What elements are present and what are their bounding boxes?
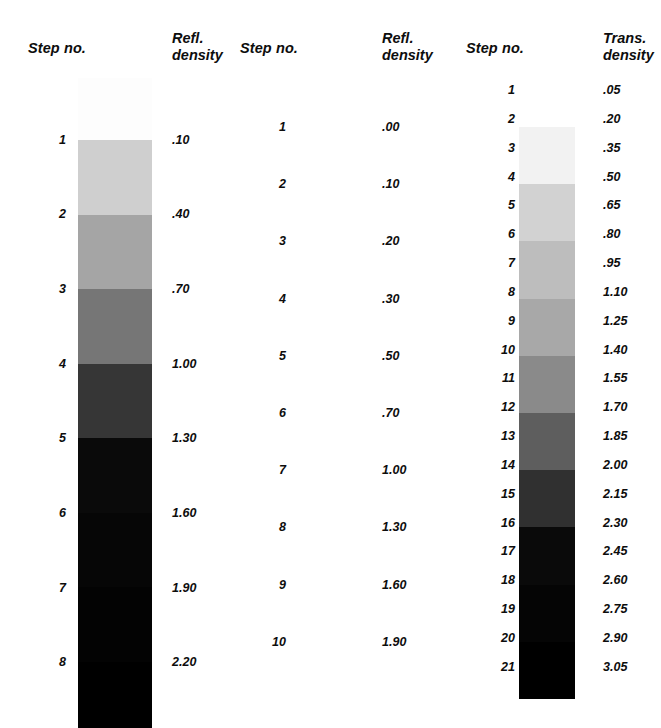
density-value-label: 1.60	[172, 507, 196, 520]
density-value-label: 2.30	[603, 517, 627, 530]
step-number-label: 14	[501, 459, 515, 472]
density-value-label: .10	[382, 178, 399, 191]
header-density-line2: density	[382, 47, 433, 63]
density-value-label: 1.55	[603, 372, 627, 385]
step-number-label: 10	[501, 344, 515, 357]
density-value-label: 1.25	[603, 315, 627, 328]
density-patch	[78, 140, 152, 215]
step-number-label: 6	[279, 407, 286, 420]
step-number-label: 3	[279, 235, 286, 248]
density-patch	[78, 438, 152, 513]
step-number-label: 5	[59, 432, 66, 445]
step-number-label: 4	[508, 171, 515, 184]
header-step-no: Step no.	[28, 40, 86, 56]
density-patch	[78, 289, 152, 364]
density-value-label: .50	[382, 350, 399, 363]
step-number-label: 6	[59, 507, 66, 520]
step-number-label: 15	[501, 488, 515, 501]
density-value-label: 1.00	[172, 358, 196, 371]
density-value-label: 2.45	[603, 545, 627, 558]
step-number-label: 8	[508, 286, 515, 299]
header-density-line2: density	[603, 47, 654, 63]
density-value-label: 1.85	[603, 430, 627, 443]
density-value-label: 1.90	[172, 582, 196, 595]
density-value-label: 1.40	[603, 344, 627, 357]
density-value-label: 1.70	[603, 401, 627, 414]
step-number-label: 6	[508, 228, 515, 241]
step-number-label: 8	[279, 521, 286, 534]
density-patch	[78, 364, 152, 439]
column-reflection-10-step: Step no. Refl. density 1.002.103.204.305…	[226, 0, 440, 728]
density-value-label: 2.60	[603, 574, 627, 587]
density-value-label: 1.60	[382, 579, 406, 592]
density-value-label: .50	[603, 171, 620, 184]
step-wedge-sheet: Step no. Refl. density 1.102.403.7041.00…	[0, 0, 661, 728]
step-number-label: 19	[501, 603, 515, 616]
step-number-label: 9	[279, 579, 286, 592]
density-value-label: 1.30	[172, 432, 196, 445]
step-number-label: 1	[279, 121, 286, 134]
density-patch	[78, 587, 152, 662]
header-step-no: Step no.	[240, 40, 298, 56]
density-value-label: .70	[172, 283, 189, 296]
step-number-label: 4	[59, 358, 66, 371]
density-value-label: .20	[603, 113, 620, 126]
step-number-label: 4	[279, 293, 286, 306]
density-value-label: 2.90	[603, 632, 627, 645]
step-number-label: 9	[508, 315, 515, 328]
step-number-label: 1	[59, 134, 66, 147]
step-number-label: 13	[501, 430, 515, 443]
step-number-label: 1	[508, 84, 515, 97]
column-transmission-21-step: Step no. Trans. density 1.052.203.354.50…	[440, 0, 661, 728]
density-value-label: .80	[603, 228, 620, 241]
step-number-label: 8	[59, 656, 66, 669]
density-patch	[78, 215, 152, 290]
step-number-label: 3	[508, 142, 515, 155]
density-value-label: .65	[603, 199, 620, 212]
step-number-label: 5	[508, 199, 515, 212]
step-number-label: 2	[59, 208, 66, 221]
density-value-label: 2.20	[172, 656, 196, 669]
column-reflection-8-step: Step no. Refl. density 1.102.403.7041.00…	[0, 0, 226, 728]
step-number-label: 3	[59, 283, 66, 296]
step-number-label: 7	[279, 464, 286, 477]
density-value-label: 3.05	[603, 661, 627, 674]
header-density-line1: Trans.	[603, 30, 646, 46]
step-number-label: 2	[279, 178, 286, 191]
density-value-label: 2.00	[603, 459, 627, 472]
density-value-label: .40	[172, 208, 189, 221]
density-value-label: 1.10	[603, 286, 627, 299]
density-strip	[78, 78, 152, 728]
density-value-label: .95	[603, 257, 620, 270]
density-value-label: .30	[382, 293, 399, 306]
header-density: Refl. density	[382, 30, 433, 63]
density-value-label: 1.90	[382, 636, 406, 649]
header-density-line1: Refl.	[172, 30, 203, 46]
density-value-label: .20	[382, 235, 399, 248]
density-value-label: 1.30	[382, 521, 406, 534]
density-value-label: .05	[603, 84, 620, 97]
step-number-label: 10	[272, 636, 286, 649]
density-value-label: .70	[382, 407, 399, 420]
step-number-label: 7	[59, 582, 66, 595]
header-density-line1: Refl.	[382, 30, 413, 46]
header-density: Refl. density	[172, 30, 223, 63]
step-number-label: 11	[502, 372, 515, 385]
density-patch	[78, 513, 152, 588]
step-number-label: 20	[501, 632, 515, 645]
density-patch-lead	[78, 78, 152, 140]
step-number-label: 17	[501, 545, 515, 558]
step-number-label: 7	[508, 257, 515, 270]
step-number-label: 21	[501, 661, 515, 674]
density-value-label: 2.15	[603, 488, 627, 501]
density-patch	[78, 662, 152, 728]
step-number-label: 18	[501, 574, 515, 587]
density-value-label: 2.75	[603, 603, 627, 616]
header-step-no: Step no.	[466, 40, 524, 56]
density-value-label: .00	[382, 121, 399, 134]
step-number-label: 5	[279, 350, 286, 363]
density-value-label: .10	[172, 134, 189, 147]
header-density: Trans. density	[603, 30, 654, 63]
step-number-label: 16	[501, 517, 515, 530]
density-value-label: .35	[603, 142, 620, 155]
